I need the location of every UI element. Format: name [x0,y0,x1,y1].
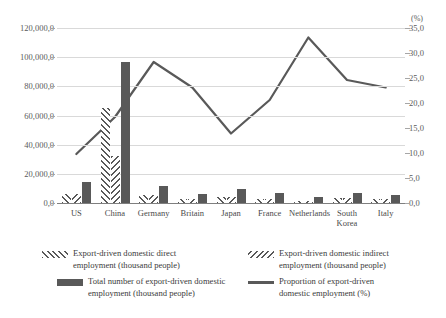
secondary-y-axis-tick-label: 15,0 [409,123,424,133]
x-axis-tick-label: France [250,208,289,218]
secondary-y-axis-tick-mark [405,153,410,154]
primary-y-axis: 0,020,000,040,000,060,000,080,000,0100,0… [0,28,54,203]
legend-label: Export-driven domestic indirect employme… [279,248,389,271]
x-axis-tick-label: Netherlands [289,208,328,218]
bar [275,193,284,203]
bar [159,186,168,203]
chart-container: (%) 0,020,000,040,000,060,000,080,000,01… [0,0,446,318]
x-axis-tick-label: China [96,208,135,218]
backward-hatch-swatch-icon [248,251,274,258]
x-axis-line [57,203,405,204]
grid-line [57,28,405,29]
secondary-y-axis-tick-mark [405,128,410,129]
grid-line [57,86,405,87]
chart-legend: Export-driven domestic direct employment… [0,243,446,318]
line-swatch-icon [248,281,274,284]
bar [101,108,110,203]
y-axis-tick-mark [50,203,55,204]
secondary-y-axis-tick-label: 30,0 [409,48,424,58]
secondary-y-axis-tick-mark [405,78,410,79]
grid-line [57,57,405,58]
secondary-y-axis-tick-label: 20,0 [409,98,424,108]
y-axis-tick-mark [50,116,55,117]
y-axis-tick-mark [50,174,55,175]
bar [139,195,148,203]
bar [353,193,362,203]
legend-label: Total number of export-driven domestic e… [88,276,225,299]
bar [198,194,207,203]
x-axis-tick-label: Germany [134,208,173,218]
y-axis-tick-mark [50,145,55,146]
y-axis-tick-mark [50,86,55,87]
bar [237,189,246,203]
secondary-y-axis-tick-label: 35,0 [409,23,424,33]
y-axis-tick-mark [50,57,55,58]
secondary-y-axis-tick-label: 25,0 [409,73,424,83]
secondary-y-axis-tick-mark [405,53,410,54]
secondary-y-axis-tick-mark [405,28,410,29]
x-axis-tick-label: Japan [212,208,251,218]
bar [82,182,91,203]
bar [72,194,81,203]
secondary-y-axis-tick-label: 5,0 [409,173,420,183]
bar [149,195,158,203]
plot-area [57,28,405,203]
secondary-y-axis-tick-label: 10,0 [409,148,424,158]
legend-label: Proportion of export-driven domestic emp… [279,276,374,299]
secondary-y-axis: 0,05,010,015,020,025,030,035,0 [409,28,446,203]
y-axis-tick-label: 100,000,0 [20,52,54,62]
legend-item: Proportion of export-driven domestic emp… [248,276,444,299]
y-axis-tick-label: 120,000,0 [20,23,54,33]
legend-label: Export-driven domestic direct employment… [73,248,180,271]
x-axis-tick-label: Britain [173,208,212,218]
x-axis-tick-label: US [57,208,96,218]
y-axis-tick-mark [50,28,55,29]
bar [121,62,130,203]
secondary-y-axis-tick-mark [405,178,410,179]
bar [391,195,400,203]
secondary-y-axis-tick-label: 0,0 [409,198,420,208]
secondary-y-axis-tick-mark [405,203,410,204]
bar [62,194,71,203]
forward-hatch-swatch-icon [42,251,68,258]
secondary-axis-unit-label: (%) [411,14,423,23]
x-axis-tick-labels: USChinaGermanyBritainJapanFranceNetherla… [57,206,405,236]
bar [111,156,120,203]
legend-item: Export-driven domestic direct employment… [42,248,242,271]
x-axis-tick-label: Italy [366,208,405,218]
secondary-y-axis-tick-mark [405,103,410,104]
legend-item: Export-driven domestic indirect employme… [248,248,444,271]
legend-item: Total number of export-driven domestic e… [57,276,247,299]
x-axis-tick-label: South Korea [328,208,367,228]
solid-swatch-icon [57,279,83,286]
